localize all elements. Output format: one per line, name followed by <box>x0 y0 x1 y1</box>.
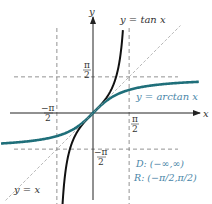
arctan-label: y = arctan x <box>135 91 198 102</box>
svg-text:2: 2 <box>84 70 90 80</box>
x-axis-label: x <box>203 108 209 119</box>
domain-annotation: D: (−∞,∞) <box>135 158 184 169</box>
identity-label: y = x <box>13 184 40 195</box>
svg-text:2: 2 <box>98 157 104 167</box>
range-annotation: R: (−π/2,π/2) <box>133 172 197 183</box>
svg-text:−π: −π <box>94 147 108 157</box>
tick-label-y-pos: π 2 <box>83 60 91 80</box>
svg-text:2: 2 <box>132 124 138 134</box>
svg-text:π: π <box>132 114 138 124</box>
svg-text:2: 2 <box>45 113 51 123</box>
chart: y x π 2 −π 2 π 2 −π 2 y = tan x y = arct… <box>0 0 212 204</box>
tan-label: y = tan x <box>119 14 166 25</box>
tick-label-x-pos: π 2 <box>131 114 139 134</box>
svg-text:π: π <box>84 60 90 70</box>
series-tan-line <box>61 30 123 204</box>
svg-text:−π: −π <box>41 103 55 113</box>
y-axis-label: y <box>88 6 95 17</box>
tick-label-y-neg: −π 2 <box>94 147 108 167</box>
